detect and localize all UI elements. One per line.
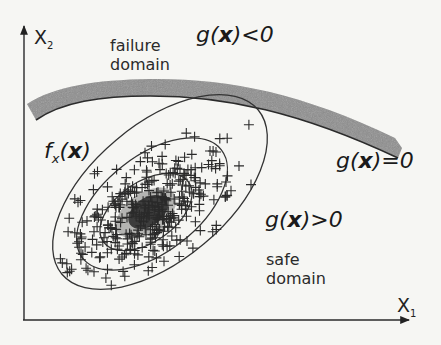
density-function-label: fx(x) [44,140,91,165]
density-open-paren: ( [59,138,68,163]
x-axis-label-text: X [397,294,410,316]
y-axis-label: X2 [34,28,53,51]
g-positive-var: x [288,207,302,232]
x-axis-label-subscript: 1 [410,308,416,319]
g-negative-suffix: )<0 [233,22,274,47]
g-zero-var: x [359,148,373,173]
failure-domain-line2: domain [110,55,170,74]
g-positive-label: g(x)>0 [265,209,343,231]
g-positive-prefix: g( [265,207,288,232]
g-negative-label: g(x)<0 [196,24,274,46]
diagram-canvas: X2 X1 failure domain g(x)<0 fx(x) g(x)=0… [0,0,441,345]
g-zero-label: g(x)=0 [336,150,414,172]
g-zero-prefix: g( [336,148,359,173]
y-axis-label-text: X [34,26,47,48]
g-zero-suffix: )=0 [373,148,414,173]
safe-domain-label: safe domain [266,250,326,288]
safe-domain-line1: safe [266,250,326,269]
g-positive-suffix: )>0 [302,207,343,232]
failure-domain-label: failure domain [110,36,170,74]
density-close-paren: ) [82,138,91,163]
density-f: f [44,138,52,163]
x-axis-label: X1 [397,296,416,319]
y-axis-label-subscript: 2 [47,40,53,51]
density-var: x [68,138,82,163]
g-negative-prefix: g( [196,22,219,47]
safe-domain-line2: domain [266,269,326,288]
g-negative-var: x [219,22,233,47]
failure-domain-line1: failure [110,36,170,55]
